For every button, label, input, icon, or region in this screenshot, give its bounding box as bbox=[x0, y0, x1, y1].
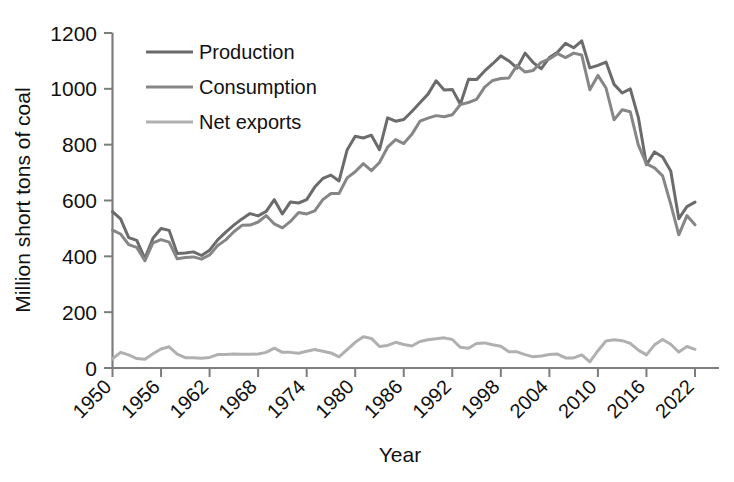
y-tick-label: 1000 bbox=[50, 77, 97, 100]
y-tick-label: 800 bbox=[62, 133, 97, 156]
chart-canvas: 020040060080010001200 195019561962196819… bbox=[0, 0, 734, 482]
y-tick-label: 400 bbox=[62, 245, 97, 268]
y-tick-label: 1200 bbox=[50, 22, 97, 45]
legend-label-net-exports: Net exports bbox=[199, 111, 301, 133]
y-axis-title: Million short tons of coal bbox=[11, 87, 34, 312]
y-tick-label: 0 bbox=[85, 357, 97, 380]
y-tick-label: 200 bbox=[62, 301, 97, 324]
x-axis-title: Year bbox=[379, 443, 421, 466]
y-tick-label: 600 bbox=[62, 189, 97, 212]
legend-label-production: Production bbox=[199, 41, 295, 63]
coal-chart: 020040060080010001200 195019561962196819… bbox=[0, 0, 734, 482]
legend-label-consumption: Consumption bbox=[199, 76, 317, 98]
